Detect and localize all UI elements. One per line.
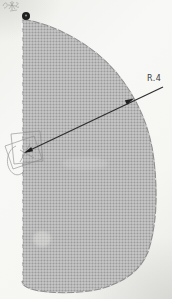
- center-mark-sketch: [5, 131, 43, 175]
- profile-outline: [22, 19, 156, 293]
- drawing-overlay: R.4: [0, 0, 172, 299]
- profile-outline-dashes: [22, 19, 156, 293]
- scanned-drawing-page: R.4: [0, 0, 172, 299]
- pencil-scribble: [3, 1, 19, 11]
- arrowhead-at-center-icon: [24, 147, 33, 153]
- origin-point-icon: [22, 12, 30, 20]
- radius-dimension-label: R.4: [147, 74, 161, 83]
- radius-leader: [24, 87, 163, 153]
